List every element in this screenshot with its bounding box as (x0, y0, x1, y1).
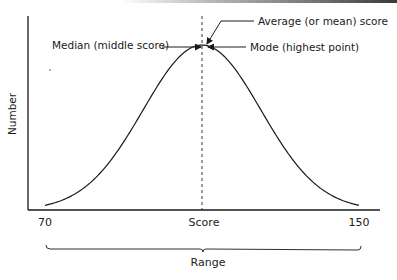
x-axis-label-score: Score (189, 216, 220, 229)
x-tick-70: 70 (38, 216, 52, 229)
annotation-mean: Average (or mean) score (258, 15, 388, 27)
speck (49, 69, 51, 71)
annotation-median: Median (middle score) (52, 39, 169, 51)
y-axis-label: Number (6, 92, 18, 135)
range-label: Range (191, 256, 226, 269)
range-bracket (46, 245, 361, 252)
mean-pointer-arrow (207, 21, 254, 44)
x-tick-150: 150 (349, 216, 370, 229)
annotation-mode: Mode (highest point) (250, 41, 359, 53)
normal-distribution-diagram: Number 70 Score 150 Average (or mean) sc… (0, 0, 397, 280)
